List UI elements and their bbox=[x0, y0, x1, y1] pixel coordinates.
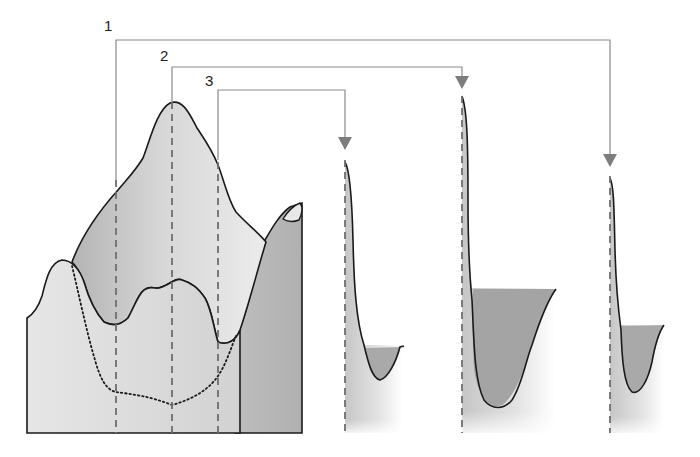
terrain-cross-section-diagram bbox=[0, 0, 700, 457]
terrain-block bbox=[27, 102, 302, 433]
guide-line-3 bbox=[218, 90, 345, 160]
arrow-down-icon bbox=[603, 154, 617, 167]
arrowheads bbox=[338, 76, 617, 167]
label-line-3: 3 bbox=[205, 73, 213, 88]
label-line-2: 2 bbox=[160, 48, 168, 63]
guide-line-2 bbox=[172, 67, 462, 102]
profile-column-2 bbox=[462, 96, 582, 433]
arrow-down-icon bbox=[338, 137, 352, 150]
label-line-1: 1 bbox=[104, 18, 112, 33]
profile-column-1 bbox=[610, 178, 700, 433]
profile-column-3 bbox=[345, 162, 425, 433]
arrow-down-icon bbox=[455, 76, 469, 89]
